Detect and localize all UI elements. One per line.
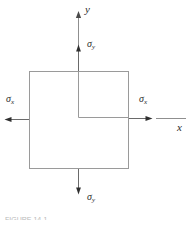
sigma-subscript: x: [11, 98, 14, 106]
sigma-subscript: y: [92, 43, 95, 51]
y-axis-arrowhead: [76, 11, 81, 18]
y-axis-label: y: [85, 4, 90, 15]
sigma-subscript: y: [92, 196, 95, 204]
sigma-y-bottom-arrowhead: [76, 188, 81, 195]
stress-element-figure: y x σy σy σx σx FIGURE 14-1: [0, 0, 194, 226]
sigma-subscript: x: [144, 98, 147, 106]
sigma-y-top-arrowhead: [76, 45, 81, 52]
sigma-y-top-label: σy: [87, 39, 95, 51]
sigma-x-left-arrowhead: [5, 117, 12, 122]
sigma-y-bottom-label: σy: [87, 192, 95, 204]
sigma-x-left-label: σx: [6, 94, 14, 106]
figure-caption: FIGURE 14-1: [5, 215, 79, 220]
sigma-x-right-arrowhead: [146, 116, 153, 121]
x-axis-label: x: [177, 122, 182, 133]
sigma-x-right-label: σx: [139, 94, 147, 106]
figure-canvas: [0, 0, 194, 226]
